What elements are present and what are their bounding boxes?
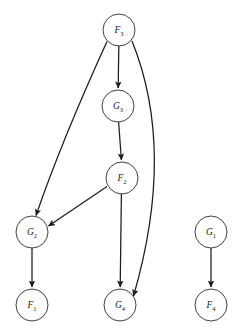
edge-f3-to-g2 <box>36 42 107 216</box>
node-f2[interactable]: F2 <box>106 162 138 194</box>
node-layer: F3 G3 F2 G2 F1 G4 G1 F4 <box>16 14 227 321</box>
node-g1[interactable]: G1 <box>195 216 227 248</box>
edge-f3-to-g3 <box>118 46 119 88</box>
node-g3[interactable]: G3 <box>102 90 134 122</box>
node-f1[interactable]: F1 <box>16 289 48 321</box>
node-g4[interactable]: G4 <box>104 289 136 321</box>
edge-f2-to-g2 <box>49 187 108 227</box>
node-g2[interactable]: G2 <box>16 216 48 248</box>
edge-g3-to-f2 <box>119 122 122 160</box>
node-f4[interactable]: F4 <box>195 289 227 321</box>
node-f3[interactable]: F3 <box>103 14 135 46</box>
directed-graph-canvas: F3 G3 F2 G2 F1 G4 G1 F4 <box>0 0 234 332</box>
edge-f2-to-g4 <box>120 194 121 287</box>
